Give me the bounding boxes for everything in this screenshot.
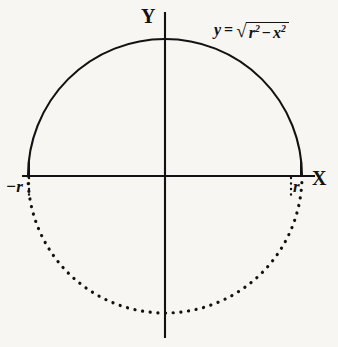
tick-label-negative-r: −r [6,178,23,195]
term-x-exponent: 2 [281,23,286,34]
tick-label-positive-r: r [293,178,300,195]
square-root-group: √ r2−x2 [236,22,289,41]
term-x-base: x [273,24,281,41]
plot-canvas [0,0,338,347]
x-axis-label: X [312,168,326,188]
figure-semicircle-plot: Y X −r r y = √ r2−x2 [0,0,338,347]
equation-lhs: y [214,22,221,38]
equals-sign: = [224,22,233,38]
equation-annotation: y = √ r2−x2 [214,22,289,41]
y-axis-label: Y [141,6,155,26]
minus-operator: − [262,24,271,41]
term-r-exponent: 2 [255,23,260,34]
radicand: r2−x2 [246,22,289,41]
